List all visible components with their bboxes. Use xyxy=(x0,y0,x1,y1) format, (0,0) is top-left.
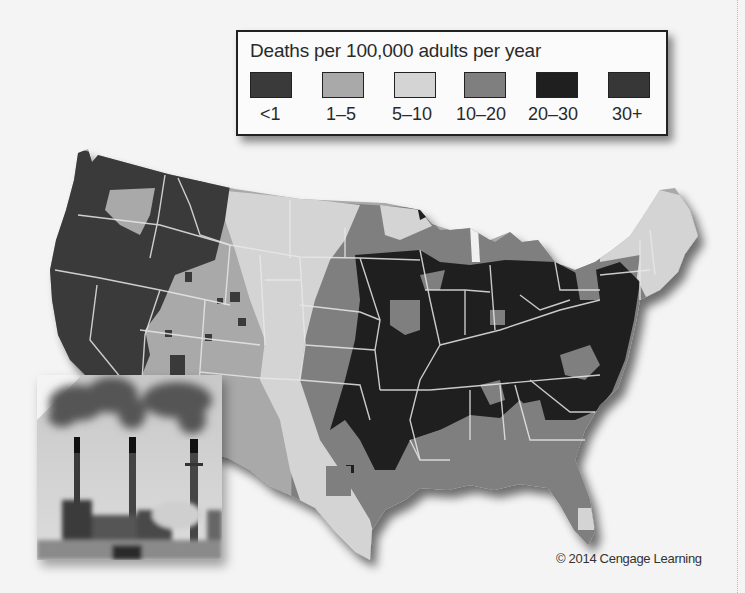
legend-label-10-20: 10–20 xyxy=(456,104,506,125)
legend-label-20-30: 20–30 xyxy=(528,104,578,125)
legend-item-lt1: <1 xyxy=(250,70,310,130)
legend-label-1-5: 1–5 xyxy=(326,104,356,125)
smokestack-photo-icon xyxy=(37,375,222,560)
legend-swatch-5-10 xyxy=(394,72,436,98)
legend-item-5-10: 5–10 xyxy=(394,70,454,130)
legend-box: Deaths per 100,000 adults per year <1 1–… xyxy=(236,30,668,136)
legend-item-10-20: 10–20 xyxy=(464,70,524,130)
legend-item-30plus: 30+ xyxy=(608,70,668,130)
legend-swatch-30plus xyxy=(608,72,650,98)
legend-label-5-10: 5–10 xyxy=(392,104,432,125)
legend-item-20-30: 20–30 xyxy=(536,70,596,130)
copyright-credit: © 2014 Cengage Learning xyxy=(556,551,702,566)
legend-swatch-lt1 xyxy=(250,72,292,98)
legend-label-lt1: <1 xyxy=(260,104,281,125)
legend-title: Deaths per 100,000 adults per year xyxy=(250,40,541,62)
legend-label-30plus: 30+ xyxy=(612,104,643,125)
legend-item-1-5: 1–5 xyxy=(322,70,382,130)
legend-swatch-20-30 xyxy=(536,72,578,98)
legend-swatch-1-5 xyxy=(322,72,364,98)
power-plant-photo xyxy=(37,375,222,560)
legend-swatch-10-20 xyxy=(464,72,506,98)
